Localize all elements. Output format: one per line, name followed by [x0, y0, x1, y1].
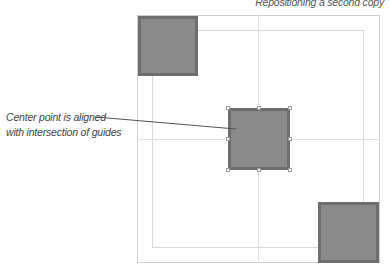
callout-line-2: with intersection of guides [6, 125, 121, 140]
callout-text: Center point is aligned with intersectio… [6, 110, 121, 140]
callout-line-1: Center point is aligned [6, 110, 121, 125]
